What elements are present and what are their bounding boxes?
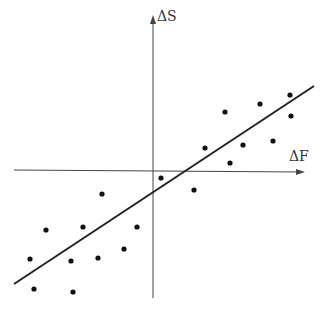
data-point <box>68 258 73 263</box>
data-point <box>27 256 32 261</box>
x-axis <box>14 170 301 172</box>
data-point <box>134 224 139 229</box>
regression-line <box>14 86 314 284</box>
y-axis-arrow-icon <box>150 15 156 24</box>
data-point <box>287 92 292 97</box>
data-point <box>191 187 196 192</box>
data-point <box>257 101 262 106</box>
data-point <box>202 145 207 150</box>
x-axis-label: ΔF <box>289 148 309 164</box>
data-point <box>270 138 275 143</box>
x-axis-arrow-icon <box>296 169 305 175</box>
data-point <box>99 191 104 196</box>
data-point <box>95 255 100 260</box>
data-point <box>31 286 36 291</box>
data-point <box>240 142 245 147</box>
data-point <box>227 160 232 165</box>
data-point <box>121 246 126 251</box>
data-point <box>43 227 48 232</box>
data-point <box>158 175 163 180</box>
data-point <box>288 113 293 118</box>
y-axis-label: ΔS <box>157 8 177 24</box>
scatter-chart: ΔS ΔF <box>0 0 329 312</box>
plot-area <box>0 0 329 312</box>
data-point <box>80 224 85 229</box>
data-point <box>70 289 75 294</box>
data-point <box>222 109 227 114</box>
